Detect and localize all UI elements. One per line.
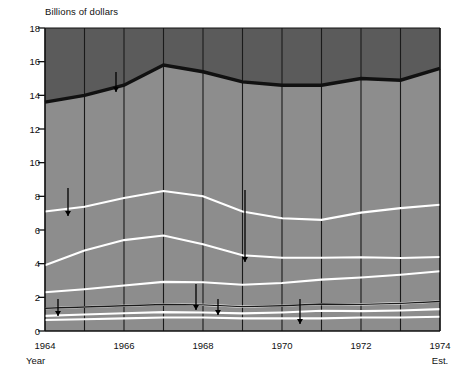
stacked-area-chart: Billions of dollars 18 16 14 12 10 8 6 4… (0, 0, 469, 386)
plot-area (0, 0, 469, 386)
